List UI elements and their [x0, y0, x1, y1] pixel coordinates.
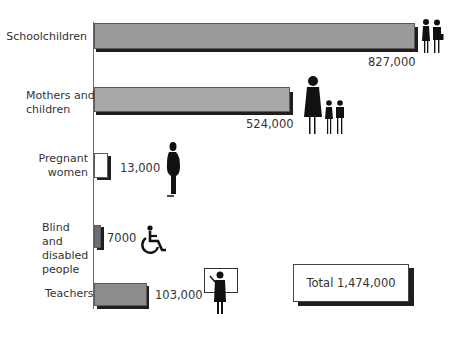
total-box: Total 1,474,000 — [293, 264, 409, 302]
value-label-blind-and-disabled: 7000 — [107, 231, 136, 245]
mother-and-children-icon — [304, 75, 350, 137]
bar-mothers-and-children — [94, 87, 290, 112]
bar-schoolchildren — [94, 23, 415, 49]
pregnant-woman-icon — [165, 142, 181, 198]
category-label-mothers-and-children: Mothers and children — [26, 89, 96, 117]
bar-pregnant-women — [94, 153, 108, 178]
total-label: Total 1,474,000 — [306, 276, 395, 290]
category-label-teachers: Teachers — [45, 287, 95, 301]
wheelchair-icon — [139, 225, 169, 255]
schoolchildren-icon — [421, 18, 447, 56]
value-label-pregnant-women: 13,000 — [120, 161, 160, 175]
value-label-mothers-and-children: 524,000 — [246, 117, 294, 131]
value-label-teachers: 103,000 — [155, 288, 203, 302]
value-label-schoolchildren: 827,000 — [368, 55, 416, 69]
bar-teachers — [94, 283, 147, 306]
bar-blind-and-disabled — [94, 225, 101, 248]
teacher-icon — [204, 268, 238, 316]
category-label-schoolchildren: Schoolchildren — [0, 30, 87, 44]
category-label-blind-and-disabled: Blind and disabled people — [42, 221, 92, 277]
category-label-pregnant-women: Pregnant women — [20, 152, 88, 180]
